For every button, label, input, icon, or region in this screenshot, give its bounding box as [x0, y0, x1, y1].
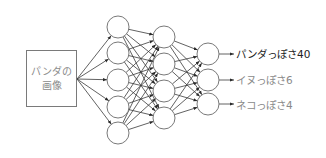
connection-arrow [174, 41, 197, 50]
connection-arrow [172, 87, 199, 111]
connection-arrow [77, 59, 109, 79]
neuron-node [197, 43, 219, 65]
connection-arrow [77, 79, 107, 80]
input-label-line2: 画像 [42, 79, 62, 93]
input-label-line1: パンダの [31, 65, 72, 79]
neuron-node [107, 16, 129, 38]
neuron-node [153, 53, 175, 75]
output-label-cat: ネコっぽさ4 [236, 99, 293, 111]
neuron-node [107, 69, 129, 91]
connection-arrow [128, 121, 153, 129]
neuron-node [107, 42, 129, 64]
neuron-node [153, 80, 175, 102]
output-label-dog: イヌっぽさ6 [236, 74, 293, 86]
connection-arrow [174, 107, 197, 114]
neuron-node [197, 69, 219, 91]
connection-arrow [128, 41, 153, 50]
output-label-panda: パンダっぽさ40 [236, 48, 310, 60]
neuron-node [197, 93, 219, 115]
neural-network-diagram: パンダの 画像 パンダっぽさ40 イヌっぽさ6 ネコっぽさ4 [0, 0, 326, 158]
neuron-node [153, 107, 175, 129]
neuron-node [153, 26, 175, 48]
connection-arrow [77, 79, 109, 101]
connection-arrow [129, 29, 154, 34]
neuron-nodes [107, 16, 219, 144]
connection-arrow [77, 79, 111, 124]
neuron-node [107, 96, 129, 118]
neuron-node [107, 122, 129, 144]
connection-arrow [77, 36, 111, 79]
input-image-box: パンダの 画像 [26, 50, 77, 107]
